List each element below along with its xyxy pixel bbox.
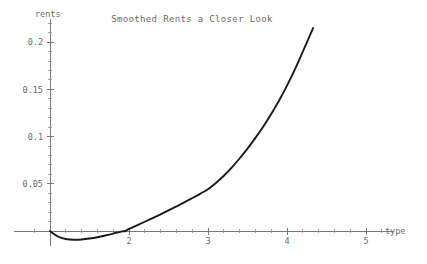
chart-canvas: Smoothed Rents a Closer Look rents type …: [0, 0, 427, 264]
series-line-smoothed-rents: [50, 28, 313, 240]
x-tick-label: 3: [205, 236, 210, 246]
y-tick-label: 0.2: [28, 37, 43, 47]
data-series-group: [50, 28, 313, 240]
y-axis-label: rents: [35, 9, 61, 19]
chart-plot-area: Smoothed Rents a Closer Look rents type …: [0, 0, 427, 264]
x-tick-label: 2: [126, 236, 131, 246]
x-axis-tick-labels: 2345: [126, 236, 368, 246]
x-tick-label: 4: [284, 236, 289, 246]
y-tick-label: 0.15: [23, 85, 43, 95]
chart-title: Smoothed Rents a Closer Look: [111, 14, 273, 24]
y-axis-tick-labels: 0.050.10.150.2: [23, 37, 43, 189]
x-tick-label: 5: [363, 236, 368, 246]
y-tick-label: 0.1: [28, 132, 43, 142]
y-tick-label: 0.05: [23, 179, 43, 189]
